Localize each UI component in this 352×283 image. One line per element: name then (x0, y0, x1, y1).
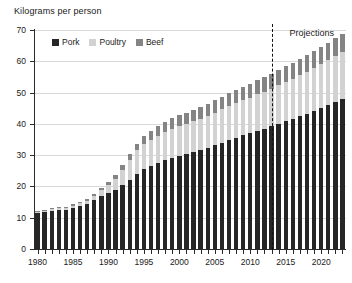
bar-segment-poultry (184, 124, 188, 154)
x-tick (101, 250, 102, 254)
bar-2011 (255, 80, 259, 249)
bar-segment-pork (113, 190, 117, 249)
bar-segment-beef (170, 118, 174, 129)
x-tick (108, 250, 109, 254)
bar-segment-poultry (305, 72, 309, 114)
bar-segment-pork (92, 200, 96, 249)
bar-segment-beef (276, 70, 280, 85)
bar-1991 (113, 175, 117, 249)
x-tick (335, 250, 336, 254)
x-tick (186, 250, 187, 254)
x-tick-label: 2015 (271, 257, 301, 267)
bar-segment-poultry (312, 68, 316, 111)
bar-segment-pork (191, 152, 195, 249)
bar-segment-poultry (170, 129, 174, 158)
bar-segment-pork (340, 99, 344, 249)
x-tick (307, 250, 308, 254)
x-tick (87, 250, 88, 254)
bar-segment-pork (177, 156, 181, 249)
x-tick (80, 250, 81, 254)
bar-segment-poultry (198, 119, 202, 150)
bar-segment-pork (298, 116, 302, 249)
bar-segment-beef (177, 115, 181, 126)
bar-segment-poultry (276, 85, 280, 123)
bar-segment-poultry (262, 92, 266, 129)
y-tick-label: 60 (2, 56, 26, 66)
bar-2016 (291, 63, 295, 249)
y-tick (30, 30, 34, 31)
bar-segment-pork (220, 143, 224, 249)
x-tick-label: 1985 (58, 257, 88, 267)
bar-segment-beef (163, 122, 167, 132)
bar-segment-poultry (128, 160, 132, 180)
bar-segment-poultry (106, 185, 110, 193)
y-tick (30, 155, 34, 156)
bar-segment-beef (198, 107, 202, 119)
y-tick-label: 10 (2, 213, 26, 223)
x-tick-label: 1990 (93, 257, 123, 267)
bar-1997 (156, 126, 160, 249)
bar-2012 (262, 77, 266, 249)
bar-segment-pork (78, 206, 82, 249)
bar-2007 (227, 93, 231, 249)
bar-segment-pork (149, 166, 153, 249)
bar-segment-poultry (255, 94, 259, 130)
bar-segment-pork (142, 169, 146, 249)
x-tick (243, 250, 244, 254)
bar-segment-pork (241, 135, 245, 249)
bar-1988 (92, 194, 96, 249)
x-tick (38, 250, 39, 254)
bar-segment-pork (71, 208, 75, 249)
chart-figure: Kilograms per person 010203040506070 198… (0, 0, 352, 283)
bar-segment-pork (248, 133, 252, 249)
x-tick-label: 2020 (306, 257, 336, 267)
x-tick-label: 1995 (129, 257, 159, 267)
legend-label: Beef (146, 37, 164, 47)
x-tick (208, 250, 209, 254)
x-tick-label: 2010 (235, 257, 265, 267)
x-tick (222, 250, 223, 254)
bar-segment-poultry (291, 79, 295, 119)
x-tick (179, 250, 180, 254)
bar-1996 (149, 131, 153, 249)
bar-1981 (42, 210, 46, 249)
bar-1986 (78, 202, 82, 249)
y-tick (30, 61, 34, 62)
bar-1989 (99, 188, 103, 249)
bar-segment-pork (206, 148, 210, 249)
bar-segment-beef (298, 59, 302, 75)
bar-segment-poultry (333, 56, 337, 102)
bar-segment-pork (234, 138, 238, 249)
bar-2017 (298, 59, 302, 249)
bar-segment-beef (248, 84, 252, 98)
bar-segment-pork (276, 124, 280, 249)
y-tick (30, 249, 34, 250)
bar-2002 (191, 110, 195, 249)
bar-segment-pork (64, 210, 68, 249)
bar-2020 (319, 47, 323, 249)
bar-1993 (128, 154, 132, 249)
bar-1985 (71, 204, 75, 249)
projection-divider-line (272, 24, 273, 250)
bar-segment-beef (142, 136, 146, 144)
legend-swatch-beef (136, 39, 143, 46)
x-tick-label: 1980 (23, 257, 53, 267)
bar-2018 (305, 55, 309, 249)
bar-segment-beef (220, 97, 224, 110)
bar-segment-poultry (156, 136, 160, 163)
bar-segment-poultry (340, 52, 344, 99)
bar-segment-pork (170, 158, 174, 249)
bar-segment-beef (312, 51, 316, 68)
bar-2009 (241, 87, 245, 249)
bar-segment-pork (262, 129, 266, 249)
bar-1998 (163, 122, 167, 249)
bar-segment-pork (319, 108, 323, 249)
bar-2004 (206, 104, 210, 249)
projections-annotation: Projections (290, 28, 335, 38)
bar-2014 (276, 70, 280, 249)
bar-segment-pork (255, 131, 259, 249)
y-tick-label: 50 (2, 88, 26, 98)
x-tick (300, 250, 301, 254)
bar-segment-poultry (135, 150, 139, 173)
x-tick (264, 250, 265, 254)
